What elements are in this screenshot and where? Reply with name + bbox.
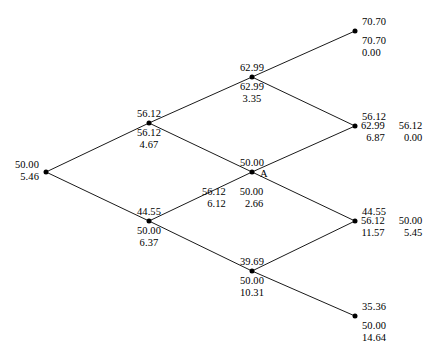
up-up-node-level2-asset-price: 62.99 <box>240 62 264 74</box>
down-down-node-level2-value-1: 50.00 <box>240 275 264 287</box>
terminal-node-uud-col-right: 56.120.00 <box>399 120 423 144</box>
edge-uu-t2 <box>252 77 355 126</box>
terminal-node-udd-col-right-value-1: 50.00 <box>399 215 423 227</box>
terminal-node-uud-col-left: 62.996.87 <box>361 120 385 144</box>
middle-node-level2-A-col-right-value-2: 2.66 <box>240 198 264 210</box>
up-up-node-level2-value-2: 3.35 <box>240 93 264 105</box>
edge-u-ud <box>149 123 252 172</box>
up-node-level1-value-2: 4.67 <box>137 139 161 151</box>
terminal-node-uud-col-right-value-2: 0.00 <box>399 132 423 144</box>
terminal-node-uud-col-left-value-2: 6.87 <box>361 132 385 144</box>
terminal-node-ddd-value-2: 14.64 <box>362 332 386 344</box>
terminal-node-uuu-asset-price: 70.70 <box>362 16 386 28</box>
up-node-level1-dot <box>147 121 152 126</box>
up-node-level1-values: 56.124.67 <box>137 127 161 151</box>
root-node-value-1: 50.00 <box>0 159 39 171</box>
edge-d-dd <box>149 221 252 271</box>
middle-node-level2-A-col-left-value-1: 56.12 <box>202 186 226 198</box>
binomial-tree-diagram: 50.005.4656.1256.124.6744.5550.006.3762.… <box>0 0 438 352</box>
terminal-node-ddd-value-1: 50.00 <box>362 320 386 332</box>
terminal-node-udd-col-right: 50.005.45 <box>399 215 423 239</box>
middle-node-level2-A-col-left-value-2: 6.12 <box>202 198 226 210</box>
down-down-node-level2-asset-price: 39.69 <box>240 256 264 268</box>
terminal-node-ddd-dot <box>353 314 358 319</box>
terminal-node-ddd-asset-price: 35.36 <box>362 301 386 313</box>
terminal-node-udd-col-left-value-1: 56.12 <box>361 215 385 227</box>
terminal-node-uud-col-right-value-1: 56.12 <box>399 120 423 132</box>
edge-root-down <box>46 172 149 221</box>
root-node-value-2: 5.46 <box>0 171 39 183</box>
edge-uu-t1 <box>252 31 355 77</box>
terminal-node-uud-value-columns: 62.996.8756.120.00 <box>361 120 422 144</box>
middle-node-level2-A-col-left: 56.126.12 <box>202 186 226 210</box>
terminal-node-udd-col-left-value-2: 11.57 <box>361 227 385 239</box>
terminal-node-uuu-value-1: 70.70 <box>362 35 386 47</box>
edge-u-uu <box>149 77 252 123</box>
down-node-level1-values: 50.006.37 <box>137 225 161 249</box>
terminal-node-uud-col-left-value-1: 62.99 <box>361 120 385 132</box>
terminal-node-uud-dot <box>353 124 358 129</box>
down-node-level1-dot <box>147 219 152 224</box>
down-down-node-level2-value-2: 10.31 <box>240 287 264 299</box>
terminal-node-ddd-values: 50.0014.64 <box>362 320 386 344</box>
down-node-level1-asset-price: 44.55 <box>137 206 161 218</box>
terminal-node-udd-value-columns: 56.1211.5750.005.45 <box>361 215 422 239</box>
down-node-level1-value-1: 50.00 <box>137 225 161 237</box>
middle-node-level2-A-dot <box>250 170 255 175</box>
terminal-node-uuu-value-2: 0.00 <box>362 47 386 59</box>
up-up-node-level2-value-1: 62.99 <box>240 81 264 93</box>
terminal-node-uuu-values: 70.700.00 <box>362 35 386 59</box>
root-node-dot <box>44 170 49 175</box>
edge-root-up <box>46 123 149 172</box>
down-down-node-level2-dot <box>250 269 255 274</box>
up-node-level1-value-1: 56.12 <box>137 127 161 139</box>
root-node-values: 50.005.46 <box>0 159 39 183</box>
terminal-node-udd-col-left: 56.1211.57 <box>361 215 385 239</box>
terminal-node-udd-dot <box>353 219 358 224</box>
terminal-node-udd-col-right-value-2: 5.45 <box>399 227 423 239</box>
up-up-node-level2-values: 62.993.35 <box>240 81 264 105</box>
middle-node-level2-A-col-right: 50.002.66 <box>240 186 264 210</box>
edge-ud-t2 <box>252 126 355 172</box>
down-node-level1-value-2: 6.37 <box>137 237 161 249</box>
up-up-node-level2-dot <box>250 75 255 80</box>
edge-dd-t4 <box>252 271 355 316</box>
edge-dd-t3 <box>252 221 355 271</box>
terminal-node-uuu-dot <box>353 29 358 34</box>
down-down-node-level2-values: 50.0010.31 <box>240 275 264 299</box>
middle-node-level2-A-tag: A <box>260 168 268 180</box>
up-node-level1-asset-price: 56.12 <box>137 108 161 120</box>
middle-node-level2-A-value-columns: 56.126.1250.002.66 <box>202 186 263 210</box>
middle-node-level2-A-col-right-value-1: 50.00 <box>240 186 264 198</box>
